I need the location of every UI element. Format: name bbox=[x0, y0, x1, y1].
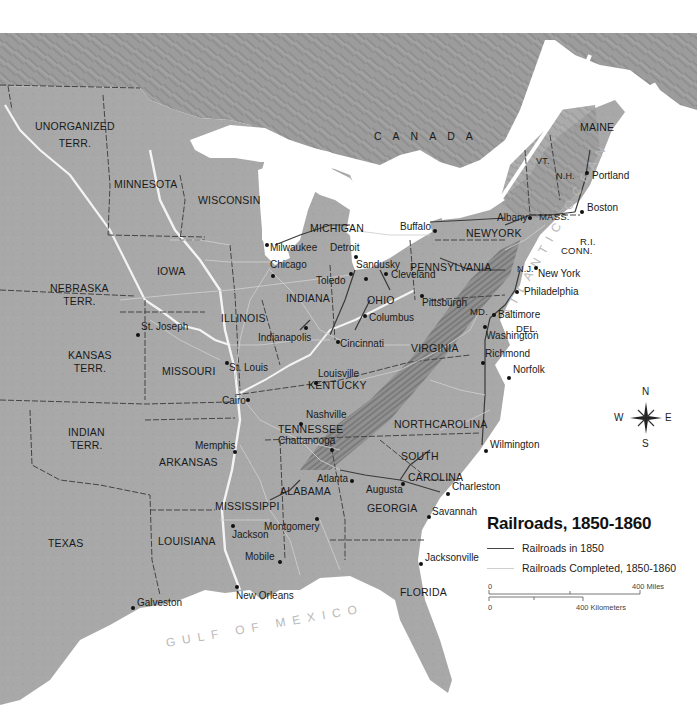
city-label-new-orleans: New Orleans bbox=[236, 591, 294, 601]
city-dot-columbus bbox=[363, 314, 367, 318]
state-label-vermont: VT. bbox=[536, 157, 550, 166]
city-label-norfolk: Norfolk bbox=[513, 365, 545, 375]
scale-miles-label: 400 Miles bbox=[632, 582, 664, 591]
city-label-cincinnati: Cincinnati bbox=[340, 339, 384, 349]
legend-item-1850: Railroads in 1850 bbox=[487, 542, 697, 554]
state-label-arkansas: ARKANSAS bbox=[159, 457, 218, 468]
state-label-connecticut: CONN. bbox=[561, 246, 593, 256]
city-label-st-joseph: St. Joseph bbox=[141, 322, 188, 332]
city-label-albany: Albany bbox=[497, 213, 528, 223]
state-label-nebraska: NEBRASKATERR. bbox=[50, 283, 109, 306]
scale-km-zero: 0 bbox=[488, 603, 492, 612]
city-dot-richmond bbox=[481, 361, 485, 365]
city-label-charleston: Charleston bbox=[452, 482, 500, 492]
city-label-chicago: Chicago bbox=[270, 260, 307, 270]
city-label-augusta: Augusta bbox=[366, 485, 403, 495]
city-label-richmond: Richmond bbox=[485, 349, 530, 359]
city-label-jacksonville: Jacksonville bbox=[425, 553, 479, 563]
city-dot-philadelphia bbox=[515, 290, 519, 294]
city-dot-nashville bbox=[299, 422, 303, 426]
city-dot-norfolk bbox=[507, 376, 511, 380]
city-label-boston: Boston bbox=[587, 203, 618, 213]
scale-km-label: 400 Kilometers bbox=[576, 603, 626, 612]
legend-swatch-light-line-icon bbox=[487, 568, 514, 569]
city-label-toledo: Toledo bbox=[316, 276, 345, 286]
state-label-florida: FLORIDA bbox=[400, 587, 447, 598]
state-label-illinois: ILLINOIS bbox=[221, 313, 266, 324]
state-label-wisconsin: WISCONSIN bbox=[198, 195, 260, 206]
state-label-louisiana: LOUISIANA bbox=[158, 536, 216, 547]
city-dot-albany bbox=[528, 216, 532, 220]
state-label-mississippi: MISSISSIPPI bbox=[215, 501, 280, 512]
city-dot-chicago bbox=[271, 274, 275, 278]
city-dot-jackson bbox=[231, 524, 235, 528]
compass-east: E bbox=[665, 412, 672, 423]
city-dot-washington bbox=[483, 325, 487, 329]
state-label-minnesota: MINNESOTA bbox=[114, 179, 177, 190]
compass-west: W bbox=[614, 412, 623, 423]
city-label-montgomery: Montgomery bbox=[264, 522, 320, 532]
city-label-savannah: Savannah bbox=[432, 507, 477, 517]
city-dot-milwaukee bbox=[265, 243, 269, 247]
state-label-new-jersey: N.J. bbox=[517, 265, 534, 274]
city-dot-charleston bbox=[446, 492, 450, 496]
state-label-ohio: OHIO bbox=[367, 295, 395, 306]
city-dot-jacksonville bbox=[419, 562, 423, 566]
city-dot-chattanooga bbox=[330, 448, 334, 452]
city-label-sandusky: Sandusky bbox=[356, 260, 400, 270]
city-label-chattanooga: Chattanooga bbox=[278, 436, 335, 446]
city-label-cairo: Cairo bbox=[222, 396, 246, 406]
city-dot-sandusky bbox=[364, 277, 368, 281]
compass-south: S bbox=[642, 438, 649, 449]
city-dot-louisville bbox=[314, 381, 318, 385]
state-label-indian: INDIANTERR. bbox=[68, 427, 105, 450]
city-label-philadelphia: Philadelphia bbox=[524, 287, 579, 297]
state-label-maine: MAINE bbox=[580, 122, 614, 133]
state-label-new-york: NEWYORK bbox=[466, 228, 522, 239]
city-dot-indianapolis bbox=[304, 326, 308, 330]
compass: N W E S bbox=[614, 386, 684, 452]
city-label-wilmington: Wilmington bbox=[490, 440, 539, 450]
city-label-washington: Washington bbox=[486, 331, 538, 341]
city-dot-savannah bbox=[427, 515, 431, 519]
legend-swatch-dark-line-icon bbox=[487, 548, 514, 549]
city-label-portland: Portland bbox=[592, 171, 629, 181]
state-label-texas: TEXAS bbox=[48, 538, 83, 549]
city-dot-portland bbox=[585, 171, 589, 175]
state-label-alabama: ALABAMA bbox=[280, 486, 331, 497]
state-label-massachusetts: MASS. bbox=[539, 212, 570, 222]
city-label-buffalo: Buffalo bbox=[400, 222, 431, 232]
map-legend: Railroads, 1850-1860 Railroads in 1850 R… bbox=[487, 514, 697, 574]
city-dot-boston bbox=[580, 210, 584, 214]
city-dot-detroit bbox=[354, 255, 358, 259]
state-label-virginia: VIRGINIA bbox=[411, 343, 459, 354]
city-label-columbus: Columbus bbox=[369, 313, 414, 323]
city-dot-new-orleans bbox=[235, 585, 239, 589]
city-label-new-york: New York bbox=[538, 269, 580, 279]
city-dot-toledo bbox=[349, 272, 353, 276]
state-label-georgia: GEORGIA bbox=[367, 503, 417, 514]
city-label-baltimore: Baltimore bbox=[498, 310, 540, 320]
scale-bar: 0 400 Miles 0 400 Kilometers bbox=[488, 582, 688, 612]
city-label-indianapolis: Indianapolis bbox=[258, 333, 311, 343]
city-label-st-louis: St. Louis bbox=[229, 363, 268, 373]
state-label-iowa: IOWA bbox=[157, 266, 185, 277]
map-title: Railroads, 1850-1860 bbox=[487, 514, 697, 534]
canada-label: CANADA bbox=[374, 131, 484, 142]
state-label-north-carolina: NORTHCAROLINA bbox=[394, 419, 487, 430]
state-label-unorganized: UNORGANIZEDTERR. bbox=[35, 121, 115, 148]
city-label-detroit: Detroit bbox=[330, 243, 359, 253]
city-label-nashville: Nashville bbox=[306, 410, 347, 420]
city-label-pittsburgh: Pittsburgh bbox=[422, 298, 467, 308]
city-label-memphis: Memphis bbox=[195, 441, 236, 451]
scale-miles-zero: 0 bbox=[488, 582, 492, 591]
state-label-michigan: MICHIGAN bbox=[310, 223, 364, 234]
state-label-tennessee: TENNESSEE bbox=[278, 424, 343, 435]
city-dot-cairo bbox=[246, 398, 250, 402]
state-label-south-carolina: SOUTHCAROLINA bbox=[400, 451, 463, 482]
state-label-missouri: MISSOURI bbox=[162, 366, 216, 377]
city-label-louisville: Louisville bbox=[318, 369, 359, 379]
city-dot-buffalo bbox=[433, 229, 437, 233]
city-dot-baltimore bbox=[492, 313, 496, 317]
compass-north: N bbox=[642, 386, 649, 397]
